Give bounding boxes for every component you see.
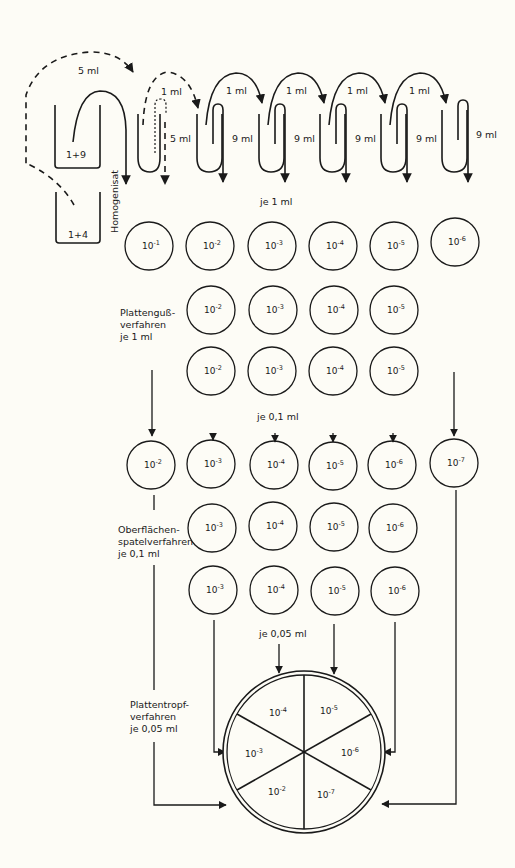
serial-dilution-diagram: 1+9 1+4 5 ml Homogenisat 1 ml 5 ml 1 ml … bbox=[0, 0, 515, 868]
diluent-label-3: 9 ml bbox=[294, 133, 315, 144]
svg-text:10-2: 10-2 bbox=[204, 303, 222, 315]
svg-text:10-6: 10-6 bbox=[388, 584, 406, 596]
plate-10e-1: 10-1 bbox=[125, 222, 173, 270]
spread-plate-row-2: 10-3 10-4 10-5 10-6 bbox=[189, 566, 419, 615]
transfer-label-3: 1 ml bbox=[286, 85, 307, 96]
drop-plate: 10-4 10-5 10-3 10-6 10-2 10-7 bbox=[223, 671, 385, 833]
homogenate-label: Homogenisat bbox=[109, 170, 120, 233]
je-1ml-label: je 1 ml bbox=[259, 196, 292, 207]
transfer-label-4: 1 ml bbox=[347, 85, 368, 96]
svg-text:10-3: 10-3 bbox=[205, 521, 223, 533]
svg-text:10-3: 10-3 bbox=[204, 457, 222, 469]
beaker-label-1-9: 1+9 bbox=[66, 149, 86, 160]
dilution-row-1: 10-1 10-2 10-3 10-4 10-5 10-6 bbox=[125, 218, 479, 270]
svg-text:10-4: 10-4 bbox=[327, 303, 345, 315]
svg-text:10-4: 10-4 bbox=[267, 458, 285, 470]
transfer-label-5: 1 ml bbox=[409, 85, 430, 96]
svg-text:10-5: 10-5 bbox=[387, 364, 405, 376]
svg-text:10-6: 10-6 bbox=[448, 235, 466, 247]
svg-text:10-1: 10-1 bbox=[142, 239, 160, 251]
transfer-label-2: 1 ml bbox=[226, 85, 247, 96]
dashed-transfer-label: 5 ml bbox=[78, 65, 99, 76]
pour-plate-row-1: 10-2 10-3 10-4 10-5 bbox=[187, 286, 418, 334]
spread-plate-label-1: Oberflächen- bbox=[118, 524, 180, 535]
svg-text:10-6: 10-6 bbox=[386, 521, 404, 533]
je-005ml-label: je 0,05 ml bbox=[258, 628, 307, 639]
plate-10e-2: 10-2 bbox=[186, 222, 234, 270]
transfer-label-1: 1 ml bbox=[161, 86, 182, 97]
svg-text:10-3: 10-3 bbox=[265, 364, 283, 376]
dilution-tube-2: 1 ml 9 ml bbox=[197, 73, 262, 182]
je-01ml-label: je 0,1 ml bbox=[256, 411, 299, 422]
svg-text:10-5: 10-5 bbox=[387, 303, 405, 315]
beaker-label-1-4: 1+4 bbox=[68, 229, 88, 240]
svg-text:10-3: 10-3 bbox=[266, 303, 284, 315]
spread-plate-label-3: je 0,1 ml bbox=[117, 548, 160, 559]
spread-plate-row-1: 10-3 10-4 10-5 10-6 bbox=[188, 502, 417, 552]
diluent-label-5: 9 ml bbox=[416, 133, 437, 144]
svg-text:10-5: 10-5 bbox=[327, 520, 345, 532]
svg-text:10-2: 10-2 bbox=[144, 458, 162, 470]
diluent-label-6: 9 ml bbox=[476, 129, 497, 140]
plate-10e-4: 10-4 bbox=[309, 222, 357, 270]
connector-right-inner bbox=[384, 622, 395, 752]
svg-text:10-5: 10-5 bbox=[328, 584, 346, 596]
plate-10e-3: 10-3 bbox=[248, 222, 296, 270]
plate-10e-5: 10-5 bbox=[370, 222, 418, 270]
svg-text:10-5: 10-5 bbox=[387, 239, 405, 251]
svg-text:10-3: 10-3 bbox=[206, 583, 224, 595]
pour-plate-row-2: 10-2 10-3 10-4 10-5 bbox=[187, 347, 418, 395]
diluent-label-2: 9 ml bbox=[232, 133, 253, 144]
svg-text:10-6: 10-6 bbox=[385, 458, 403, 470]
pour-plate-label-2: verfahren bbox=[120, 319, 166, 330]
homogenate-beaker-1-4: 1+4 bbox=[56, 192, 100, 243]
pour-plate-label-3: je 1 ml bbox=[119, 331, 152, 342]
svg-text:10-3: 10-3 bbox=[265, 239, 283, 251]
svg-text:10-7: 10-7 bbox=[447, 456, 465, 468]
connector-right-outer bbox=[382, 490, 456, 804]
drop-plate-label-2: verfahren bbox=[130, 711, 176, 722]
svg-text:10-2: 10-2 bbox=[203, 239, 221, 251]
plate-10e-6: 10-6 bbox=[431, 218, 479, 266]
diluent-label-4: 9 ml bbox=[355, 133, 376, 144]
tube-volume-label-1: 5 ml bbox=[170, 133, 191, 144]
spread-plate-label-2: spatelverfahren bbox=[118, 536, 193, 547]
svg-text:10-2: 10-2 bbox=[204, 364, 222, 376]
svg-text:10-4: 10-4 bbox=[266, 519, 284, 531]
spread-plate-input-row: 10-2 10-3 10-4 10-5 10-6 10-7 bbox=[127, 439, 478, 490]
dilution-tube-3: 1 ml 9 ml bbox=[259, 73, 324, 182]
dilution-tube-4: 1 ml 9 ml bbox=[320, 73, 385, 182]
dilution-tube-6: 9 ml bbox=[442, 100, 497, 182]
svg-text:10-4: 10-4 bbox=[326, 239, 344, 251]
dilution-tube-1: 1 ml 5 ml bbox=[138, 72, 198, 184]
dilution-tube-5: 1 ml 9 ml bbox=[381, 73, 446, 182]
svg-text:10-5: 10-5 bbox=[326, 459, 344, 471]
connector-left-inner bbox=[214, 620, 225, 752]
pour-plate-label-1: Plattenguß- bbox=[120, 307, 175, 318]
drop-plate-label-3: je 0,05 ml bbox=[129, 723, 178, 734]
drop-plate-label-1: Plattentropf- bbox=[130, 699, 189, 710]
svg-text:10-4: 10-4 bbox=[267, 583, 285, 595]
svg-text:10-4: 10-4 bbox=[326, 364, 344, 376]
